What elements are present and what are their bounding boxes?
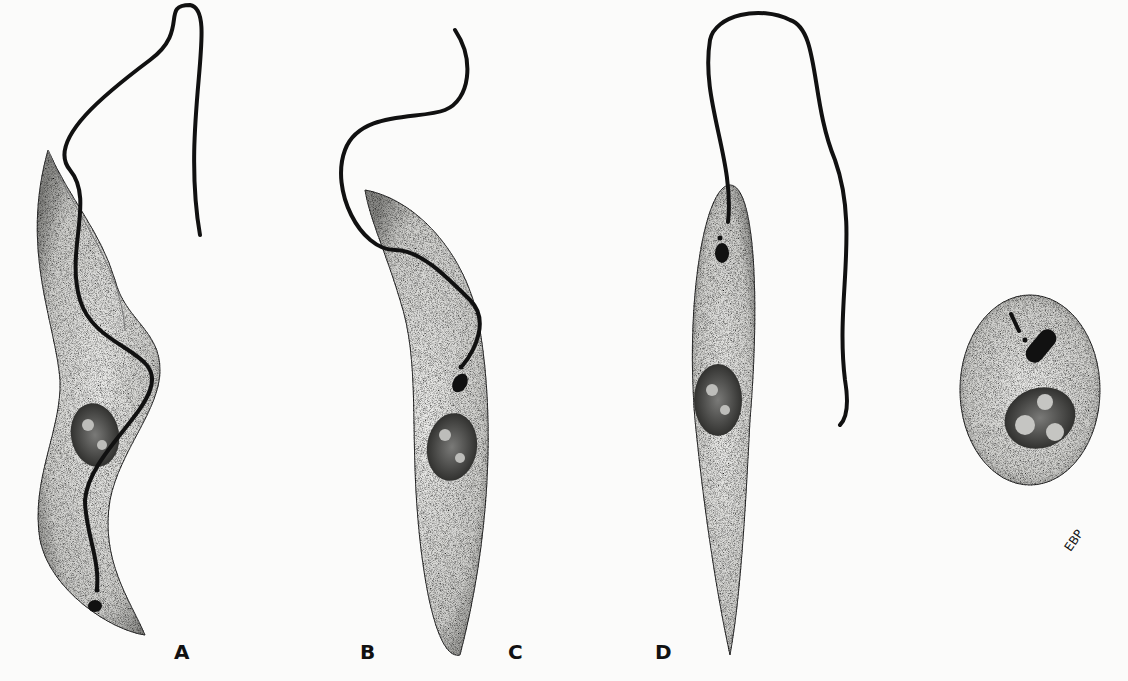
cell-b-epimastigote xyxy=(341,30,488,655)
cell-a-trypomastigote xyxy=(37,5,201,635)
cell-c-promastigote xyxy=(692,13,847,655)
figure-stage: A B C D EBP xyxy=(0,0,1128,681)
label-a: A xyxy=(174,640,189,664)
label-b: B xyxy=(360,640,375,664)
label-c: C xyxy=(508,640,523,664)
label-d: D xyxy=(655,640,672,664)
cell-d-amastigote xyxy=(960,295,1100,485)
